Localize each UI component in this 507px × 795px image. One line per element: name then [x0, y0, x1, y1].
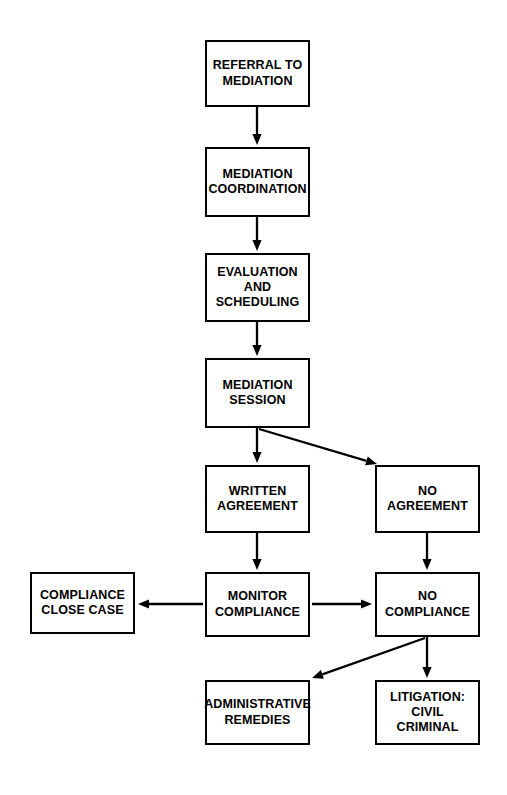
- node-label-referral-to-mediation: REFERRAL TO MEDIATION: [210, 58, 306, 89]
- connector-session-to-no-agreement: [259, 429, 377, 465]
- node-no-compliance[interactable]: NO COMPLIANCE: [375, 572, 480, 637]
- node-label-evaluation-and-scheduling: EVALUATION AND SCHEDULING: [213, 265, 303, 311]
- node-monitor-compliance[interactable]: MONITOR COMPLIANCE: [205, 572, 310, 637]
- node-label-litigation-civil-criminal: LITIGATION: CIVIL CRIMINAL: [387, 690, 468, 736]
- node-label-no-agreement: NO AGREEMENT: [384, 484, 471, 515]
- node-label-compliance-close-case: COMPLIANCE CLOSE CASE: [37, 588, 128, 619]
- connector-monitor-to-compliance-close-case: [138, 599, 203, 608]
- node-label-no-compliance: NO COMPLIANCE: [382, 589, 473, 620]
- node-label-mediation-coordination: MEDIATION COORDINATION: [205, 167, 309, 198]
- connector-evaluation-to-session: [252, 322, 261, 356]
- node-litigation-civil-criminal[interactable]: LITIGATION: CIVIL CRIMINAL: [375, 680, 480, 745]
- connector-monitor-to-no-compliance: [312, 599, 372, 608]
- node-mediation-coordination[interactable]: MEDIATION COORDINATION: [205, 147, 310, 217]
- connector-coordination-to-evaluation: [252, 217, 261, 251]
- connector-no-agreement-to-no-compliance: [422, 533, 431, 570]
- node-label-written-agreement: WRITTEN AGREEMENT: [214, 484, 301, 515]
- node-administrative-remedies[interactable]: ADMINISTRATIVE REMEDIES: [205, 680, 310, 745]
- node-compliance-close-case[interactable]: COMPLIANCE CLOSE CASE: [30, 572, 135, 634]
- node-no-agreement[interactable]: NO AGREEMENT: [375, 465, 480, 533]
- connector-no-compliance-to-litigation: [422, 637, 431, 678]
- connector-referral-to-coordination: [252, 107, 261, 145]
- node-label-monitor-compliance: MONITOR COMPLIANCE: [212, 589, 303, 620]
- connector-no-compliance-to-administrative-remedies: [312, 638, 425, 679]
- node-label-administrative-remedies: ADMINISTRATIVE REMEDIES: [201, 697, 314, 728]
- node-label-mediation-session: MEDIATION SESSION: [219, 378, 295, 409]
- node-evaluation-and-scheduling[interactable]: EVALUATION AND SCHEDULING: [205, 253, 310, 322]
- connector-written-agreement-to-monitor: [252, 533, 261, 570]
- node-written-agreement[interactable]: WRITTEN AGREEMENT: [205, 465, 310, 533]
- node-referral-to-mediation[interactable]: REFERRAL TO MEDIATION: [205, 40, 310, 107]
- flowchart-canvas: REFERRAL TO MEDIATIONMEDIATION COORDINAT…: [0, 0, 507, 795]
- node-mediation-session[interactable]: MEDIATION SESSION: [205, 358, 310, 428]
- connector-session-to-written-agreement: [252, 428, 261, 463]
